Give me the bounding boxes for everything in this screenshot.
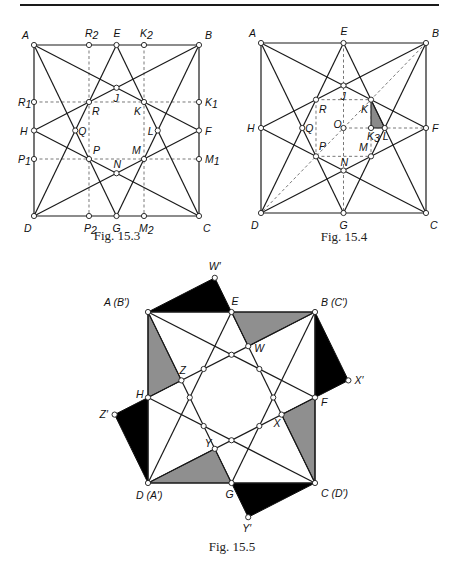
label-B: B (C′) <box>321 296 347 308</box>
black-triangle <box>232 483 316 517</box>
point-R1 <box>31 99 36 104</box>
point-C <box>423 210 428 215</box>
point-F <box>196 128 201 133</box>
point-E <box>341 40 346 45</box>
point-A <box>31 42 36 47</box>
point-O <box>341 125 346 130</box>
point-R <box>86 99 91 104</box>
label-K3: K3 <box>367 130 380 144</box>
page: AR2EK2BR1K1HFP1M1DP2GM2CJRKQLPMNAEBHFDGC… <box>0 0 459 564</box>
label-R: R <box>319 103 327 115</box>
label-Z2: Z′ <box>99 408 109 420</box>
point-Z2 <box>112 412 117 417</box>
black-triangle <box>148 278 232 312</box>
point-J <box>229 352 234 357</box>
label-E: E <box>232 295 240 307</box>
point-P1 <box>31 156 36 161</box>
point-P <box>201 423 206 428</box>
label-F: F <box>321 396 328 408</box>
caption-fig-15-3: Fig. 15.3 <box>94 228 141 244</box>
point-P2 <box>86 213 91 218</box>
grey-triangle <box>232 312 316 346</box>
point-P <box>86 156 91 161</box>
grey-triangle <box>282 398 315 484</box>
label-B: B <box>432 27 439 39</box>
label-B: B <box>205 29 212 41</box>
label-F: F <box>432 122 439 134</box>
point-Z <box>179 378 184 383</box>
label-K2: K2 <box>140 27 153 41</box>
point-F <box>423 125 428 130</box>
label-E: E <box>341 25 349 37</box>
point-G <box>341 210 346 215</box>
grey-triangle <box>148 312 181 398</box>
label-R2: R2 <box>85 27 99 41</box>
label-W: W <box>254 342 265 354</box>
point-J <box>114 85 119 90</box>
label-E: E <box>114 27 122 39</box>
point-W2 <box>212 275 217 280</box>
point-H <box>31 128 36 133</box>
caption-fig-15-5: Fig. 15.5 <box>209 539 256 555</box>
point-X2 <box>346 378 351 383</box>
point-R <box>313 97 318 102</box>
point-R2 <box>86 42 91 47</box>
label-C: C <box>430 219 438 231</box>
label-M: M <box>359 141 368 153</box>
point-Y <box>212 446 217 451</box>
point-A <box>145 309 150 314</box>
point-K <box>368 97 373 102</box>
point-B <box>423 40 428 45</box>
point-Q <box>300 125 305 130</box>
label-P: P <box>319 140 326 152</box>
point-K <box>257 366 262 371</box>
label-H: H <box>247 122 255 134</box>
label-J: J <box>340 90 347 102</box>
label-Y2: Y′ <box>242 522 252 534</box>
fig-15-4: AEBHFDGCJRKQOK3LPMN <box>247 25 439 231</box>
point-H <box>258 125 263 130</box>
label-L: L <box>383 130 389 142</box>
point-C <box>196 213 201 218</box>
label-D: D (A′) <box>136 489 162 501</box>
point-M2 <box>141 213 146 218</box>
point-M <box>368 154 373 159</box>
point-A <box>258 40 263 45</box>
point-N <box>341 168 346 173</box>
label-N: N <box>341 156 349 168</box>
fig-15-5: A (B′)W′EB (C′)WZHFX′Z′XYD (A′)GC (D′)Y′ <box>99 260 365 534</box>
point-B <box>196 42 201 47</box>
label-A: A (B′) <box>103 296 130 308</box>
point-K2 <box>141 42 146 47</box>
point-P <box>313 154 318 159</box>
point-K1 <box>196 99 201 104</box>
point-N <box>114 171 119 176</box>
label-X: X <box>273 417 282 429</box>
point-M1 <box>196 156 201 161</box>
point-B <box>312 309 317 314</box>
label-C: C <box>203 222 211 234</box>
point-Q <box>73 128 78 133</box>
point-E <box>114 42 119 47</box>
point-E <box>229 309 234 314</box>
point-F <box>312 395 317 400</box>
point-M <box>141 156 146 161</box>
point-Q <box>187 395 192 400</box>
black-triangle <box>115 398 148 484</box>
point-K <box>141 99 146 104</box>
label-Y: Y <box>205 437 213 449</box>
label-A: A <box>248 27 256 39</box>
point-D <box>31 213 36 218</box>
point-W <box>246 344 251 349</box>
label-W2: W′ <box>209 260 222 272</box>
point-M <box>257 423 262 428</box>
point-G <box>229 480 234 485</box>
label-J: J <box>113 92 120 104</box>
label-Q: Q <box>305 122 313 134</box>
point-N <box>229 438 234 443</box>
label-Z: Z <box>178 364 186 376</box>
label-L: L <box>148 125 154 137</box>
label-D: D <box>24 222 32 234</box>
grey-triangle <box>148 449 232 483</box>
label-N: N <box>114 158 122 170</box>
